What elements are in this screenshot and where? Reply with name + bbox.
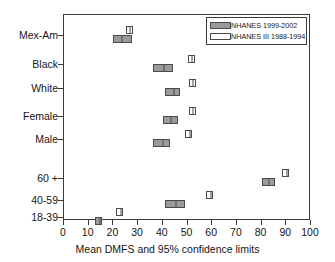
marker-center-tick xyxy=(120,209,121,215)
y-axis-label-male: Male xyxy=(0,134,58,145)
legend-item-nhanes-1999-2002: NHANES 1999-2002 xyxy=(210,21,304,30)
x-axis-tick xyxy=(211,220,212,225)
y-axis-tick xyxy=(58,139,63,140)
legend-label-nhanes-1999-2002: NHANES 1999-2002 xyxy=(231,22,297,30)
y-axis-label-black: Black xyxy=(0,59,58,70)
data-marker xyxy=(165,200,185,208)
y-axis-label-mex-am: Mex-Am xyxy=(0,30,58,41)
legend-swatch-filled-icon xyxy=(210,22,231,29)
y-axis-tick xyxy=(58,178,63,179)
y-axis-tick xyxy=(58,116,63,117)
marker-center-tick xyxy=(173,89,174,95)
x-axis-tick-label: 10 xyxy=(82,226,94,238)
data-marker xyxy=(116,208,123,216)
x-axis-tick-label: 100 xyxy=(301,226,319,238)
x-axis-tick-label: 60 xyxy=(205,226,217,238)
data-marker xyxy=(188,55,195,63)
x-axis-tick-label: 30 xyxy=(131,226,143,238)
x-axis-tick-label: 80 xyxy=(255,226,267,238)
marker-center-tick xyxy=(268,179,269,185)
y-axis-tick xyxy=(58,88,63,89)
marker-center-tick xyxy=(162,140,163,146)
y-axis-label-40-59: 40-59 xyxy=(0,195,58,206)
data-marker xyxy=(206,191,213,199)
marker-center-tick xyxy=(171,117,172,123)
y-axis-label-white: White xyxy=(0,83,58,94)
legend-label-nhanes-iii-1988-1994: NHANES III 1988-1994 xyxy=(231,33,305,41)
y-axis-category-labels: Mex-AmBlackWhiteFemaleMale60 +40-5918-39 xyxy=(0,14,58,220)
x-axis-tick xyxy=(236,220,237,225)
x-axis-tick xyxy=(112,220,113,225)
x-axis-tick-label: 50 xyxy=(181,226,193,238)
x-axis-tick xyxy=(310,220,311,225)
marker-center-tick xyxy=(121,36,122,42)
chart-legend: NHANES 1999-2002 NHANES III 1988-1994 xyxy=(206,17,307,45)
marker-center-tick xyxy=(163,65,164,71)
legend-swatch-hollow-icon xyxy=(210,33,231,40)
x-axis-tick-label: 0 xyxy=(60,226,66,238)
y-axis-tick xyxy=(58,217,63,218)
x-axis-title: Mean DMFS and 95% confidence limits xyxy=(0,243,335,255)
x-axis-tick-label: 40 xyxy=(156,226,168,238)
data-marker xyxy=(185,130,192,138)
data-marker xyxy=(113,35,132,43)
marker-center-tick xyxy=(99,218,100,224)
legend-item-nhanes-iii-1988-1994: NHANES III 1988-1994 xyxy=(210,32,304,41)
x-axis-tick xyxy=(187,220,188,225)
data-marker xyxy=(189,79,196,87)
data-marker xyxy=(189,107,196,115)
x-axis-tick xyxy=(88,220,89,225)
x-axis-tick-label: 70 xyxy=(230,226,242,238)
data-marker xyxy=(95,217,102,225)
dmfs-confidence-limits-chart: Mex-AmBlackWhiteFemaleMale60 +40-5918-39… xyxy=(0,0,335,262)
y-axis-label-female: Female xyxy=(0,111,58,122)
x-axis-tick xyxy=(137,220,138,225)
y-axis-tick xyxy=(58,35,63,36)
data-marker xyxy=(126,26,133,34)
marker-center-tick xyxy=(189,131,190,137)
data-marker xyxy=(153,139,170,147)
data-marker xyxy=(282,169,289,177)
marker-center-tick xyxy=(176,201,177,207)
marker-center-tick xyxy=(287,170,288,176)
y-axis-tick xyxy=(58,64,63,65)
marker-center-tick xyxy=(210,192,211,198)
x-axis-tick xyxy=(63,220,64,225)
x-axis-tick xyxy=(261,220,262,225)
x-axis-tick xyxy=(162,220,163,225)
data-marker xyxy=(163,116,178,124)
marker-center-tick xyxy=(192,56,193,62)
data-marker xyxy=(153,64,173,72)
y-axis-label-18-39: 18-39 xyxy=(0,212,58,223)
marker-center-tick xyxy=(193,108,194,114)
data-marker xyxy=(165,88,180,96)
data-marker xyxy=(262,178,276,186)
x-axis-tick xyxy=(285,220,286,225)
y-axis-label-60: 60 + xyxy=(0,173,58,184)
x-axis-tick-label: 20 xyxy=(107,226,119,238)
y-axis-tick xyxy=(58,200,63,201)
x-axis-tick-label: 90 xyxy=(279,226,291,238)
marker-center-tick xyxy=(193,80,194,86)
marker-center-tick xyxy=(130,27,131,33)
